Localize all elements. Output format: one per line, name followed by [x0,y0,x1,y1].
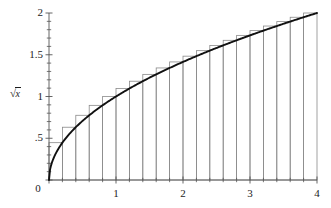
riemann-rectangle [89,105,102,180]
x-tick-label: 2 [173,188,193,199]
riemann-rectangle [143,74,156,180]
x-tick-label: 1 [106,188,126,199]
riemann-rectangle [49,143,62,180]
y-tick-label: 1.5 [17,49,43,60]
riemann-rectangle [290,17,303,180]
y-axis-label: √x [10,88,21,99]
riemann-rectangle [223,40,236,180]
riemann-rectangle [210,45,223,180]
riemann-rectangle [103,97,116,181]
y-tick-label: 2 [17,7,43,18]
riemann-rectangle [263,26,276,180]
y-tick-label: 0 [33,183,43,194]
x-tick-label: 4 [307,188,327,199]
riemann-rectangle [277,22,290,180]
y-tick-label: .5 [17,132,43,143]
riemann-rectangles [49,13,317,180]
radicand-x: x [15,87,20,99]
chart-canvas [0,0,331,208]
sqrt-glyph: √x [10,88,21,99]
x-tick-label: 3 [240,188,260,199]
riemann-rectangle [304,13,317,180]
axes-group [46,13,318,184]
riemann-rectangle [183,56,196,180]
riemann-rectangle [196,51,209,180]
figure-sqrt-riemann-sum: 0.511.521234 √x [0,0,331,208]
riemann-rectangle [156,68,169,180]
riemann-rectangle [237,35,250,180]
riemann-rectangle [170,62,183,180]
riemann-rectangle [129,81,142,180]
y-tick-label: 1 [17,91,43,102]
riemann-rectangle [116,89,129,180]
y-axis-ticks [46,13,53,180]
riemann-rectangle [250,31,263,180]
